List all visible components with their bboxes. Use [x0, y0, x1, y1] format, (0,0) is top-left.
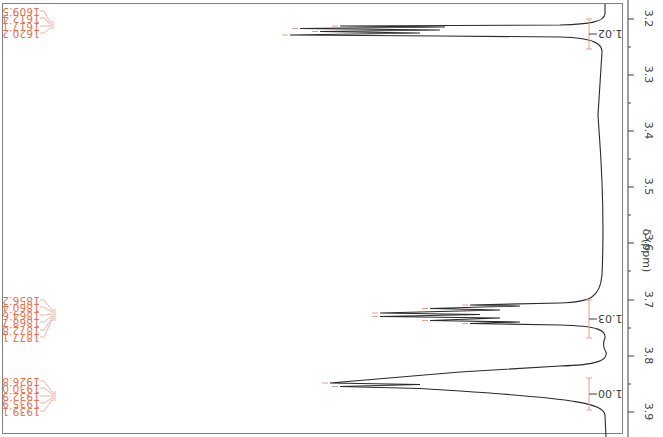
label-connectors [40, 11, 56, 411]
axis-tick-label: 3.2 [642, 10, 655, 28]
integral-bars [586, 19, 592, 410]
axis-title: δ (ppm) [640, 229, 653, 273]
peak-label: 1939.1 [2, 406, 40, 417]
integral-value: 1.00 [598, 387, 623, 400]
axis-tick-label: 3.4 [642, 122, 655, 140]
axis-tick-label: 3.8 [642, 347, 655, 365]
spectrum-plot [0, 0, 663, 437]
axis-tick-label: 3.9 [642, 403, 655, 421]
axis-tick-label: 3.7 [642, 291, 655, 309]
peak-markers [282, 26, 468, 387]
peak-label: 1620.2 [2, 28, 40, 39]
axis-tick-label: 3.5 [642, 178, 655, 196]
spectrum-trace [290, 4, 606, 437]
integral-value: 1.02 [598, 27, 623, 40]
peak-label: 1877.1 [2, 332, 40, 343]
axis-tick-label: 3.3 [642, 66, 655, 84]
integral-value: 1.03 [598, 312, 623, 325]
axis-ticks [628, 19, 634, 412]
integral-ticks [589, 34, 597, 394]
